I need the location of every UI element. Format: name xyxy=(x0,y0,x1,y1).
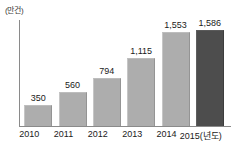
bar-group: 350 xyxy=(21,20,55,126)
bar-group: 560 xyxy=(56,20,90,126)
bar xyxy=(59,92,87,126)
bar xyxy=(24,105,52,126)
bar-chart: (만건) 3505607941,1151,5531,586 2010201120… xyxy=(0,0,235,154)
bar-value-label: 794 xyxy=(90,66,124,76)
bar-group: 1,553 xyxy=(159,20,193,126)
bar-value-label: 1,553 xyxy=(159,20,193,30)
bar-group: 794 xyxy=(90,20,124,126)
bar xyxy=(162,32,190,126)
bar-value-label: 350 xyxy=(21,93,55,103)
bar xyxy=(127,58,155,126)
bar-value-label: 560 xyxy=(56,80,90,90)
bar xyxy=(93,78,121,126)
plot-area: 3505607941,1151,5531,586 xyxy=(19,20,231,126)
x-axis-category-labels: 201020112012201320142015(년도) xyxy=(19,129,231,149)
bar xyxy=(196,30,224,126)
x-axis-tick-label: 2015(년도) xyxy=(175,129,227,142)
bar-group: 1,586 xyxy=(193,20,227,126)
y-axis-unit-label: (만건) xyxy=(5,4,24,15)
bar-group: 1,115 xyxy=(124,20,158,126)
bar-value-label: 1,586 xyxy=(193,18,227,28)
x-axis-line xyxy=(19,126,231,127)
bar-value-label: 1,115 xyxy=(124,46,158,56)
